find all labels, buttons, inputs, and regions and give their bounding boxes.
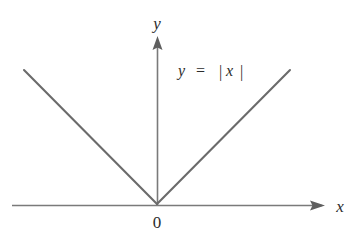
plot-canvas: y x 0 y = | x | [0,0,363,245]
y-axis-label: y [151,14,161,33]
origin-label: 0 [153,213,162,232]
x-axis-label: x [335,197,344,216]
equation-bar-right: | [240,63,243,81]
equation-operator: = [196,62,205,79]
curve-right-branch [157,70,290,204]
math-figure-absolute-value: y x 0 y = | x | [0,0,363,245]
equation-annotation: y = | x | [176,62,243,81]
equation-bar-left: | [219,63,222,81]
equation-lhs: y [176,62,186,80]
equation-variable: x [225,62,233,79]
curve-left-branch [24,70,157,204]
